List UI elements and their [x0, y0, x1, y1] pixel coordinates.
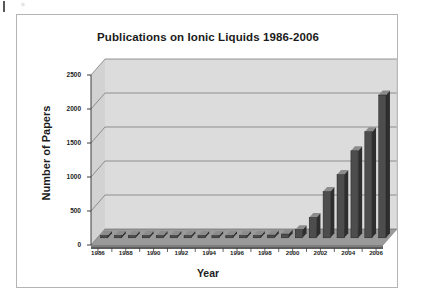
y-tick-label: 1500 [51, 139, 81, 146]
bar-front-face [156, 236, 163, 238]
bar-front-face [170, 236, 177, 238]
bar-front-face [240, 236, 247, 238]
y-tick-label: 2500 [51, 71, 81, 78]
x-tick-label: 1990 [141, 249, 167, 256]
chart-bar [379, 91, 390, 238]
bar-front-face [212, 236, 219, 238]
y-tick-label: 1000 [51, 173, 81, 180]
bar-side-face [344, 170, 348, 238]
x-tick-label: 1988 [113, 249, 139, 256]
bar-front-face [142, 236, 149, 238]
x-axis-title: Year [17, 267, 399, 279]
bar-side-face [358, 146, 362, 238]
bar-front-face [309, 217, 316, 237]
bar-front-face [267, 235, 274, 238]
chart-figure-frame: Publications on Ionic Liquids 1986-2006 [16, 14, 398, 288]
bar-front-face [295, 230, 302, 238]
x-tick-label: 1996 [224, 249, 250, 256]
bar-front-face [254, 236, 261, 238]
bar-front-face [379, 95, 386, 238]
bar-front-face [226, 236, 233, 238]
bar-side-face [372, 127, 376, 238]
bar-front-face [198, 236, 205, 238]
bar-front-face [351, 151, 358, 238]
y-tick-label: 2000 [51, 105, 81, 112]
x-tick-label: 2004 [335, 249, 361, 256]
x-tick-label: 1998 [252, 249, 278, 256]
bar-front-face [184, 236, 191, 238]
chart-area: Publications on Ionic Liquids 1986-2006 [17, 15, 399, 289]
bar-front-face [365, 132, 372, 238]
y-axis-title: Number of Papers [40, 78, 52, 228]
bar-front-face [128, 236, 135, 238]
x-tick-label: 1994 [196, 249, 222, 256]
bar-side-face [330, 187, 334, 238]
x-tick-label: 2006 [363, 249, 389, 256]
x-tick-label: 2002 [307, 249, 333, 256]
x-tick-label: 1986 [85, 249, 111, 256]
x-tick-label: 2000 [280, 249, 306, 256]
chart-bar [351, 146, 362, 238]
chart-bar [337, 170, 348, 238]
scan-artifact-mark [3, 1, 5, 12]
chart-bar [309, 213, 320, 238]
x-tick-label: 1992 [168, 249, 194, 256]
bar-front-face [101, 236, 108, 238]
bar-front-face [115, 236, 122, 238]
bar-front-face [337, 175, 344, 238]
chart-bar [365, 127, 376, 238]
scan-artifact-smudge [20, 2, 26, 7]
y-tick-label: 0 [51, 241, 81, 248]
chart-bar [323, 187, 334, 238]
bar-front-face [281, 234, 288, 238]
y-tick-label: 500 [51, 207, 81, 214]
bar-side-face [386, 91, 390, 238]
bar-front-face [323, 192, 330, 238]
